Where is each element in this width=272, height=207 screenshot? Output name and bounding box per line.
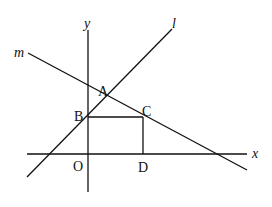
origin-label: O (73, 159, 83, 174)
line-m-label: m (14, 45, 24, 60)
line-l (27, 29, 172, 177)
point-d-label: D (138, 160, 148, 175)
point-b-label: B (74, 109, 83, 124)
x-axis-label: x (251, 146, 259, 161)
line-l-label: l (172, 16, 176, 31)
point-a-label: A (98, 84, 109, 99)
line-m (28, 53, 247, 170)
point-c-label: C (142, 104, 151, 119)
geometry-diagram: y x O l m A B C D (0, 0, 272, 207)
y-axis-label: y (82, 16, 91, 31)
